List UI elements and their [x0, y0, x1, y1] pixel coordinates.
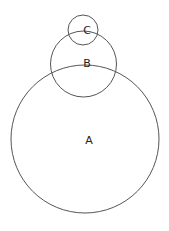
label-a: A	[85, 134, 93, 147]
circle-diagram: A B C	[0, 0, 169, 231]
label-c: C	[83, 24, 91, 37]
label-b: B	[83, 57, 91, 70]
